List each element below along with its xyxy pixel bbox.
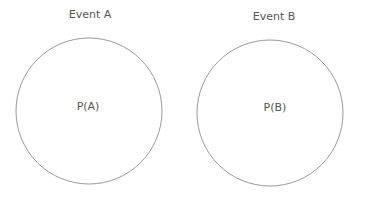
event-b-title: Event B bbox=[253, 10, 296, 23]
event-b-label: P(B) bbox=[264, 101, 287, 114]
event-a-label: P(A) bbox=[77, 100, 100, 113]
venn-diagram bbox=[0, 0, 366, 200]
event-a-title: Event A bbox=[69, 8, 112, 21]
